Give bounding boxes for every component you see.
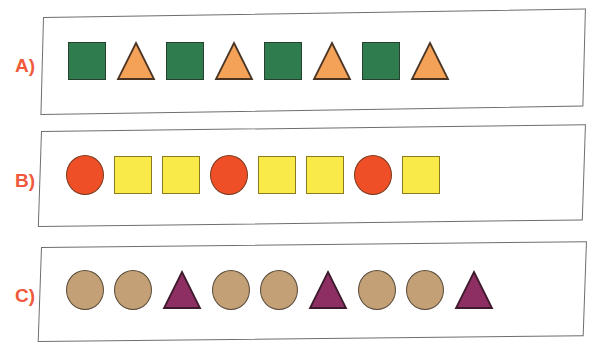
circle-shape bbox=[358, 270, 396, 310]
circle-shape bbox=[66, 155, 104, 195]
square-shape bbox=[258, 156, 296, 194]
circle-shape bbox=[212, 270, 250, 310]
circle-shape bbox=[406, 270, 444, 310]
square-shape bbox=[402, 156, 440, 194]
triangle-shape bbox=[308, 270, 348, 310]
square-shape bbox=[114, 156, 152, 194]
square-shape bbox=[306, 156, 344, 194]
circle-shape bbox=[354, 155, 392, 195]
shape-strip-a bbox=[68, 41, 450, 81]
square-shape bbox=[264, 42, 302, 80]
triangle-shape bbox=[410, 41, 450, 81]
square-shape bbox=[68, 42, 106, 80]
circle-shape bbox=[66, 270, 104, 310]
shape-strip-b bbox=[66, 155, 440, 195]
pattern-worksheet: A) B) C) bbox=[0, 0, 604, 350]
circle-shape bbox=[210, 155, 248, 195]
circle-shape bbox=[114, 270, 152, 310]
row-label-c: C) bbox=[15, 285, 35, 307]
triangle-shape bbox=[162, 270, 202, 310]
shape-strip-c bbox=[66, 270, 494, 310]
pattern-row-c: C) bbox=[0, 232, 604, 350]
triangle-shape bbox=[116, 41, 156, 81]
row-label-b: B) bbox=[15, 170, 35, 192]
triangle-shape bbox=[454, 270, 494, 310]
triangle-shape bbox=[312, 41, 352, 81]
circle-shape bbox=[260, 270, 298, 310]
pattern-row-b: B) bbox=[0, 116, 604, 234]
square-shape bbox=[166, 42, 204, 80]
square-shape bbox=[362, 42, 400, 80]
triangle-shape bbox=[214, 41, 254, 81]
row-label-a: A) bbox=[15, 55, 35, 77]
square-shape bbox=[162, 156, 200, 194]
pattern-row-a: A) bbox=[0, 0, 604, 118]
